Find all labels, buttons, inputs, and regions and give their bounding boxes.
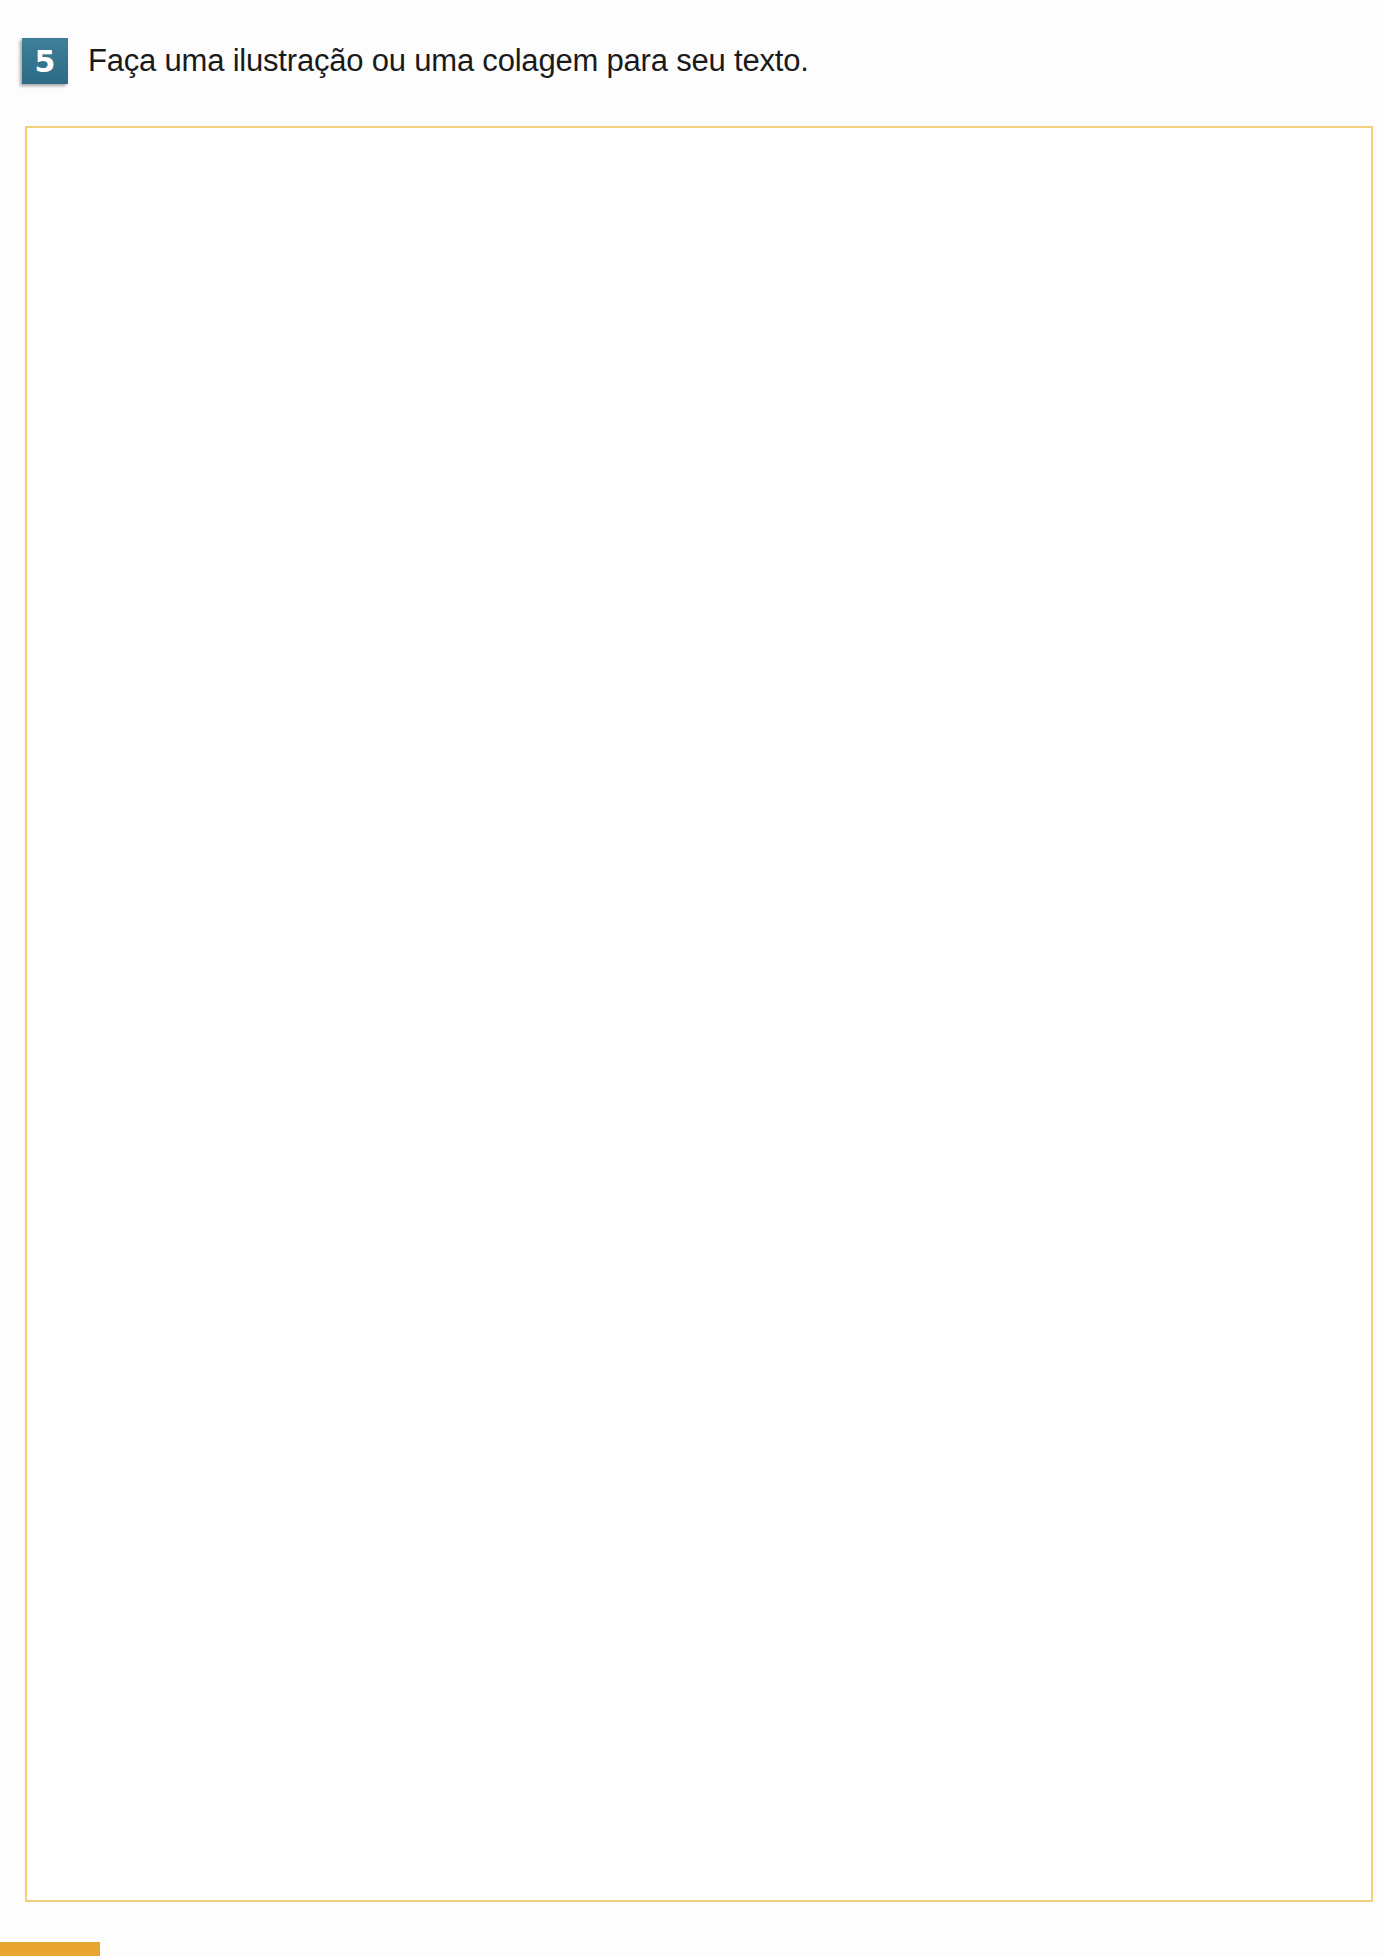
drawing-area[interactable] bbox=[25, 126, 1373, 1902]
page-number-tab bbox=[0, 1942, 100, 1956]
exercise-header: 5 Faça uma ilustração ou uma colagem par… bbox=[22, 38, 809, 84]
exercise-instruction: Faça uma ilustração ou uma colagem para … bbox=[88, 43, 809, 79]
exercise-number-badge: 5 bbox=[22, 38, 68, 84]
